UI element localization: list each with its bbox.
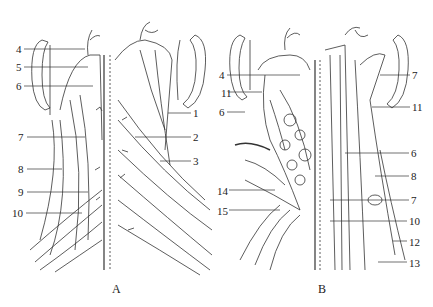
- panel-b-drawing: [230, 27, 409, 270]
- label-b-11: 11: [221, 88, 232, 99]
- label-a-6: 6: [16, 81, 22, 92]
- label-b-10: 10: [409, 216, 420, 227]
- label-a-5: 5: [16, 62, 22, 73]
- label-a-3: 3: [193, 156, 199, 167]
- label-a-9: 9: [18, 187, 24, 198]
- label-a-7: 7: [18, 132, 24, 143]
- panel-b-caption: B: [318, 282, 326, 297]
- label-b-12: 12: [409, 237, 420, 248]
- panel-a-caption: A: [112, 282, 121, 297]
- anatomy-figure: 4561723891047111166814715101213 A B: [0, 0, 433, 307]
- label-a-4: 4: [16, 44, 22, 55]
- label-b-11: 11: [412, 102, 423, 113]
- label-b-6: 6: [219, 107, 225, 118]
- label-a-2: 2: [193, 132, 199, 143]
- label-a-1: 1: [193, 108, 199, 119]
- label-b-4: 4: [219, 70, 225, 81]
- label-b-7: 7: [412, 70, 418, 81]
- label-a-10: 10: [12, 208, 23, 219]
- label-b-6: 6: [411, 148, 417, 159]
- label-b-7: 7: [411, 195, 417, 206]
- figure-drawing: [0, 0, 433, 307]
- label-b-13: 13: [409, 258, 420, 269]
- label-b-15: 15: [217, 206, 228, 217]
- panel-a-drawing: [30, 22, 212, 275]
- label-b-14: 14: [217, 186, 228, 197]
- label-a-8: 8: [18, 164, 24, 175]
- label-b-8: 8: [411, 171, 417, 182]
